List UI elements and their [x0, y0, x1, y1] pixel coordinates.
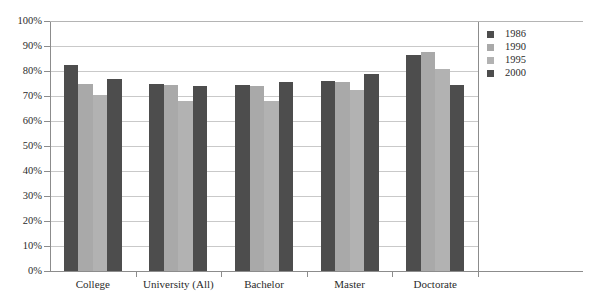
x-axis-category-label: Bachelor: [221, 278, 307, 290]
legend-item-label: 2000: [505, 68, 526, 79]
x-axis-category-label: Master: [307, 278, 393, 290]
y-axis-tick-label: 100%: [0, 16, 42, 27]
bars-layer: [50, 21, 478, 271]
y-axis-tick-mark: [44, 196, 50, 197]
legend-item-label: 1995: [505, 55, 526, 66]
bar: [164, 85, 179, 271]
x-axis-category-label: Doctorate: [392, 278, 478, 290]
bar: [149, 84, 164, 272]
legend-item: 2000: [487, 67, 597, 80]
bar: [193, 86, 208, 271]
y-axis-tick-label: 20%: [0, 216, 42, 227]
bar: [435, 69, 450, 272]
bar: [279, 82, 294, 271]
legend-item: 1990: [487, 41, 597, 54]
y-axis-tick-mark: [44, 96, 50, 97]
legend-swatch-icon: [487, 70, 494, 77]
bar: [78, 84, 93, 272]
y-axis-tick-label: 50%: [0, 141, 42, 152]
bar: [335, 82, 350, 271]
x-axis-category-label: University (All): [136, 278, 222, 290]
y-axis-tick-mark: [44, 271, 50, 272]
bar: [250, 86, 265, 271]
bar: [406, 55, 421, 271]
legend-item: 1995: [487, 54, 597, 67]
chart-legend: 1986199019952000: [487, 28, 597, 80]
x-axis-tick-mark: [221, 271, 222, 277]
x-axis-tick-mark: [392, 271, 393, 277]
bar: [178, 101, 193, 271]
bar: [450, 85, 465, 271]
legend-swatch-icon: [487, 57, 494, 64]
y-axis-tick-mark: [44, 221, 50, 222]
y-axis-tick-label: 40%: [0, 166, 42, 177]
bar: [350, 90, 365, 271]
x-axis-tick-mark: [478, 271, 479, 277]
y-axis-line: [50, 21, 51, 272]
x-axis-tick-mark: [136, 271, 137, 277]
y-axis-tick-mark: [44, 146, 50, 147]
legend-item-label: 1990: [505, 42, 526, 53]
plot-right-border: [478, 21, 479, 272]
x-axis-tick-mark: [307, 271, 308, 277]
top-gridline-extension: [50, 21, 583, 22]
legend-item: 1986: [487, 28, 597, 41]
bar: [64, 65, 79, 271]
legend-swatch-icon: [487, 44, 494, 51]
bar: [321, 81, 336, 271]
y-axis-tick-label: 80%: [0, 66, 42, 77]
y-axis-tick-label: 70%: [0, 91, 42, 102]
bar: [107, 79, 122, 272]
legend-swatch-icon: [487, 31, 494, 38]
y-axis-tick-mark: [44, 46, 50, 47]
y-axis-tick-label: 30%: [0, 191, 42, 202]
bar: [421, 52, 436, 271]
x-axis-category-labels: CollegeUniversity (All)BachelorMasterDoc…: [50, 276, 478, 300]
y-axis-tick-mark: [44, 121, 50, 122]
y-axis-tick-mark: [44, 246, 50, 247]
y-axis-tick-label: 90%: [0, 41, 42, 52]
bar: [235, 85, 250, 271]
bar: [93, 95, 108, 271]
y-axis-tick-label: 10%: [0, 241, 42, 252]
x-axis-line: [50, 271, 583, 272]
y-axis-tick-mark: [44, 171, 50, 172]
x-axis-category-label: College: [50, 278, 136, 290]
bar-chart: 100%90%80%70%60%50%40%30%20%10%0% Colleg…: [0, 0, 612, 307]
y-axis-tick-labels: 100%90%80%70%60%50%40%30%20%10%0%: [0, 0, 44, 307]
y-axis-tick-label: 0%: [0, 266, 42, 277]
bar: [264, 101, 279, 271]
legend-item-label: 1986: [505, 29, 526, 40]
y-axis-tick-label: 60%: [0, 116, 42, 127]
bar: [364, 74, 379, 272]
y-axis-tick-mark: [44, 71, 50, 72]
